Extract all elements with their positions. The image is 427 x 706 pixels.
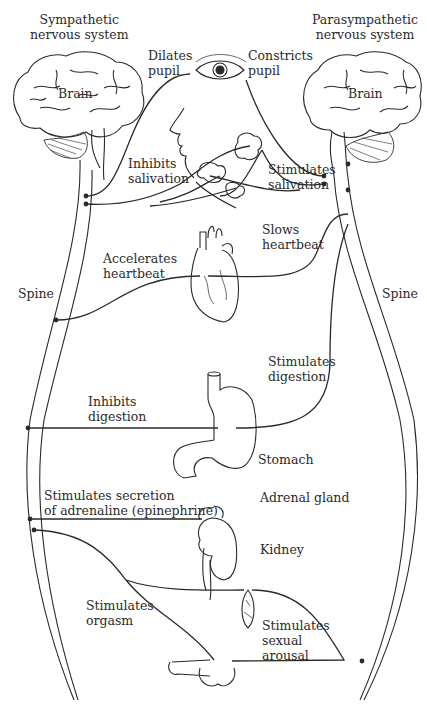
right-spine-label: Spine [382,286,418,301]
reproductive-organ-icon [169,590,254,686]
left-spine-line [27,160,80,700]
nerve-sym-sexual [34,530,244,660]
stimulates-orgasm-label: Stimulates orgasm [86,598,154,628]
left-spine-label: Spine [18,286,54,301]
diagram-canvas [0,0,427,706]
stimulates-sexual-arousal-label: Stimulates sexual arousal [262,618,330,663]
nerve-para-stomach [236,224,348,428]
adrenaline-label: Stimulates secretion of adrenaline (epin… [44,488,218,518]
left-brain-icon [14,52,144,180]
adrenal-gland-label: Adrenal gland [260,490,349,505]
stimulates-salivation-label: Stimulates salivation [268,162,336,192]
stimulates-digestion-label: Stimulates digestion [268,354,336,384]
inhibits-digestion-label: Inhibits digestion [88,394,146,424]
kidney-label: Kidney [260,542,304,557]
slows-heartbeat-label: Slows heartbeat [262,222,324,252]
kidney-icon [199,507,237,600]
parasympathetic-title: Parasympathetic nervous system [312,12,418,42]
heart-icon [191,226,238,322]
stomach-label: Stomach [258,452,313,467]
accelerates-heartbeat-label: Accelerates heartbeat [103,251,177,281]
eye-icon [196,55,246,80]
right-spine-line-inner [348,178,417,700]
dilates-pupil-label: Dilates pupil [148,48,192,78]
right-brain-label: Brain [348,86,383,101]
left-brain-label: Brain [58,86,93,101]
constricts-pupil-label: Constricts pupil [248,48,313,78]
salivary-gland-icon [197,133,261,198]
stomach-icon [174,372,256,478]
sympathetic-title: Sympathetic nervous system [30,12,129,42]
right-brain-icon [304,52,422,178]
inhibits-salivation-label: Inhibits salivation [128,156,189,186]
